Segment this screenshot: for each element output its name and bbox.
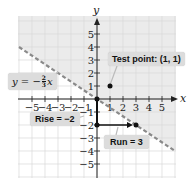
point-0-neg2-marker — [95, 123, 100, 128]
origin-point-marker — [95, 97, 100, 102]
test-point-text: Test point: (1, 1) — [112, 54, 181, 64]
rise-text: Rise = −2 — [35, 114, 75, 124]
run-leader — [116, 127, 118, 135]
y-tick-label: 5 — [88, 29, 94, 40]
equation-var: x — [47, 76, 53, 87]
x-axis-label: x — [180, 92, 187, 105]
point-3-neg2-marker — [134, 123, 139, 128]
y-tick-label: 1 — [88, 81, 94, 92]
equation-lhs: y = − — [12, 76, 41, 87]
y-tick-label: −1 — [79, 107, 94, 118]
test-point-label: Test point: (1, 1) — [108, 52, 185, 66]
equation-label: y = − 2 3 x — [8, 73, 57, 90]
y-tick-label: −3 — [79, 133, 94, 144]
test-point-marker — [108, 84, 113, 89]
x-tick-label: 5 — [159, 102, 165, 113]
y-axis-label: y — [92, 4, 100, 17]
x-tick-label: 2 — [120, 102, 126, 113]
x-tick-label: 3 — [133, 102, 139, 113]
run-arrow-icon — [127, 122, 133, 128]
fraction-denominator: 3 — [42, 82, 46, 88]
y-tick-label: 3 — [88, 55, 94, 66]
y-tick-label: −2 — [79, 120, 94, 131]
x-tick-label: 4 — [146, 102, 152, 113]
y-tick-label: −5 — [79, 159, 94, 170]
run-text: Run = 3 — [110, 137, 143, 147]
y-tick-label: 2 — [88, 68, 94, 79]
rise-label: Rise = −2 — [30, 112, 80, 126]
y-tick-label: −4 — [79, 146, 94, 157]
coordinate-plane: −5−4−3−2−11234554321−1−2−3−4−5 x y — [0, 0, 188, 193]
y-tick-label: 4 — [88, 42, 94, 53]
run-label: Run = 3 — [104, 135, 149, 149]
graph-figure: −5−4−3−2−11234554321−1−2−3−4−5 x y Test … — [0, 0, 188, 193]
equation-fraction: 2 3 — [42, 75, 46, 88]
